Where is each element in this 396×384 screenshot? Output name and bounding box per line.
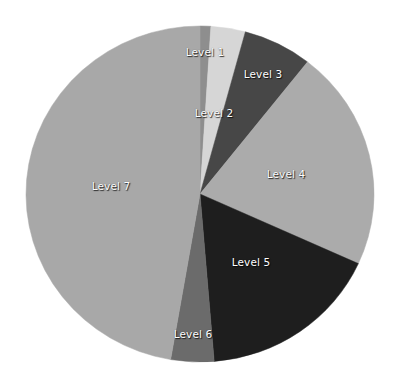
pie-chart-plot — [0, 0, 396, 384]
pie-chart: Level 1 Level 2 Level 3 Level 4 Level 5 … — [0, 0, 396, 384]
pie-slice-level-7 — [26, 26, 200, 360]
